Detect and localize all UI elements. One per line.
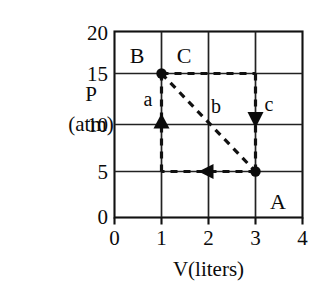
xtick-label-2: 2 [203,226,214,250]
arrow-up-path-a [154,114,170,129]
y-axis-title-line2: (atm) [68,112,113,136]
region-label-a: A [270,189,286,214]
xtick-label-0: 0 [109,226,120,250]
arrow-down-path-c [248,112,264,128]
pv-diagram-canvas: 20 15 10 5 0 0 1 2 3 4 P (atm) V(liters)… [0,0,327,294]
ytick-label-5: 5 [98,160,109,184]
pv-diagram-figure: 20 15 10 5 0 0 1 2 3 4 P (atm) V(liters)… [0,0,327,294]
state-point-lower-right [250,166,260,176]
y-axis-title-line1: P [85,82,97,106]
state-point-upper-left [156,68,166,78]
region-label-b: B [130,43,145,68]
xtick-label-1: 1 [156,226,167,250]
path-label-b: b [211,95,221,117]
arrow-left-bottom-segment [199,164,214,179]
region-label-c: C [177,43,192,68]
ytick-label-20: 20 [87,21,108,45]
xtick-label-3: 3 [250,226,261,250]
path-label-a: a [144,88,153,110]
ytick-label-0: 0 [98,205,109,229]
xtick-label-4: 4 [297,226,308,250]
path-label-c: c [265,93,274,115]
x-axis-title: V(liters) [173,257,244,281]
